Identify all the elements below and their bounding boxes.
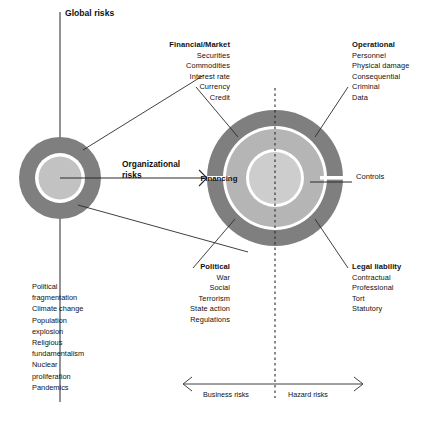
global-risks-item: fundamentalism	[32, 348, 122, 359]
group-operational-heading: Operational	[352, 40, 409, 51]
group-political-item: Terrorism	[190, 294, 230, 305]
group-political-item: Regulations	[190, 315, 230, 326]
leader-political-to-right-circle	[193, 219, 235, 268]
group-financial-market: Financial/Market Securities Commodities …	[169, 40, 230, 104]
group-financial-market-item: Currency	[169, 82, 230, 93]
group-legal-liability-item: Tort	[352, 294, 401, 305]
group-political: Political War Social Terrorism State act…	[190, 262, 230, 326]
group-operational-item: Personnel	[352, 51, 409, 62]
group-financial-market-item: Securities	[169, 51, 230, 62]
global-risks-item: Climate change	[32, 303, 122, 314]
global-risks-item: Religious	[32, 337, 122, 348]
page-title: Global risks	[65, 8, 114, 18]
group-operational-item: Data	[352, 93, 409, 104]
global-risks-item: Nuclear	[32, 359, 122, 370]
group-political-item: War	[190, 273, 230, 284]
group-political-heading: Political	[190, 262, 230, 273]
group-legal-liability-heading: Legal liability	[352, 262, 401, 273]
group-legal-liability-item: Professional	[352, 283, 401, 294]
group-operational-item: Physical damage	[352, 61, 409, 72]
axis-label-hazard-risks: Hazard risks	[288, 390, 328, 399]
controls-label: Controls	[356, 172, 384, 181]
global-risks-item: Pandemics	[32, 382, 122, 393]
global-risks-list: Political fragmentation Climate change P…	[32, 281, 122, 393]
global-risks-item: Political	[32, 281, 122, 292]
global-risks-item: explosion	[32, 326, 122, 337]
axis-label-business-risks: Business risks	[203, 390, 249, 399]
group-political-item: State action	[190, 304, 230, 315]
group-legal-liability-item: Statutory	[352, 304, 401, 315]
group-political-item: Social	[190, 283, 230, 294]
global-risks-item: proliferation	[32, 371, 122, 382]
group-operational: Operational Personnel Physical damage Co…	[352, 40, 409, 104]
leader-legal-to-right-circle	[315, 219, 348, 268]
group-operational-item: Consequential	[352, 72, 409, 83]
risk-universe-diagram: Global risks Financial/Market Securities…	[0, 0, 438, 421]
financing-core-text: Financing	[201, 174, 238, 183]
risk-spectrum-axis	[183, 377, 363, 391]
global-risks-item: fragmentation	[32, 292, 122, 303]
group-financial-market-heading: Financial/Market	[169, 40, 230, 51]
group-financial-market-item: Credit	[169, 93, 230, 104]
leader-operational-to-right-circle	[315, 87, 348, 137]
group-legal-liability-item: Contractual	[352, 273, 401, 284]
group-operational-item: Criminal	[352, 82, 409, 93]
global-risks-item: Population	[32, 315, 122, 326]
group-financial-market-item: Commodities	[169, 61, 230, 72]
group-legal-liability: Legal liability Contractual Professional…	[352, 262, 401, 315]
group-financial-market-item: Interest rate	[169, 72, 230, 83]
